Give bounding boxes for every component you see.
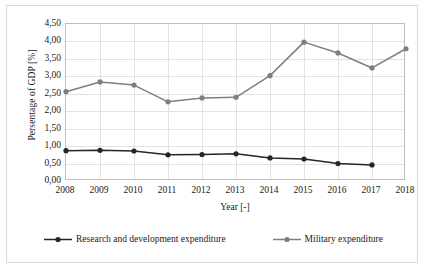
- series-marker: [335, 50, 340, 55]
- legend-item[interactable]: Military expenditure: [272, 234, 383, 244]
- legend-label: Military expenditure: [305, 234, 383, 244]
- y-tick-label: 2,50: [17, 88, 61, 98]
- series-marker: [199, 152, 204, 157]
- y-tick-label: 4,50: [17, 18, 61, 28]
- series-marker: [267, 155, 272, 160]
- y-tick-label: 2,00: [17, 105, 61, 115]
- series-marker: [199, 95, 204, 100]
- legend-item[interactable]: Research and development expenditure: [43, 234, 226, 244]
- chart-figure: Persentage of GDP [%] 0,000,501,001,502,…: [6, 5, 418, 263]
- x-tick-label: 2018: [385, 185, 425, 195]
- x-axis-title: Year [-]: [65, 202, 405, 212]
- y-tick-label: 3,00: [17, 70, 61, 80]
- chart-legend: Research and development expenditureMili…: [7, 234, 419, 244]
- series-lines: [66, 24, 406, 181]
- series-marker: [233, 95, 238, 100]
- series-marker: [131, 82, 136, 87]
- x-axis-tick-labels: 2008200920102011201220132014201520162017…: [65, 185, 405, 199]
- series-line: [66, 150, 372, 165]
- legend-label: Research and development expenditure: [76, 234, 226, 244]
- series-marker: [301, 156, 306, 161]
- series-marker: [131, 148, 136, 153]
- y-tick-label: 0,00: [17, 175, 61, 185]
- plot-area: [65, 23, 405, 180]
- series-marker: [369, 65, 374, 70]
- y-tick-label: 4,00: [17, 35, 61, 45]
- series-marker: [165, 99, 170, 104]
- series-marker: [369, 162, 374, 167]
- legend-marker-icon: [43, 235, 73, 244]
- series-line: [66, 42, 406, 102]
- series-marker: [335, 161, 340, 166]
- y-tick-label: 1,00: [17, 140, 61, 150]
- series-marker: [97, 79, 102, 84]
- series-marker: [403, 46, 408, 51]
- series-marker: [301, 40, 306, 45]
- y-tick-label: 0,50: [17, 158, 61, 168]
- series-marker: [97, 148, 102, 153]
- legend-marker-icon: [272, 235, 302, 244]
- series-marker: [233, 151, 238, 156]
- series-marker: [267, 73, 272, 78]
- y-tick-label: 1,50: [17, 123, 61, 133]
- series-marker: [165, 152, 170, 157]
- y-axis-tick-labels: 0,000,501,001,502,002,503,003,504,004,50: [15, 23, 61, 180]
- series-marker: [63, 89, 68, 94]
- series-marker: [63, 148, 68, 153]
- y-tick-label: 3,50: [17, 53, 61, 63]
